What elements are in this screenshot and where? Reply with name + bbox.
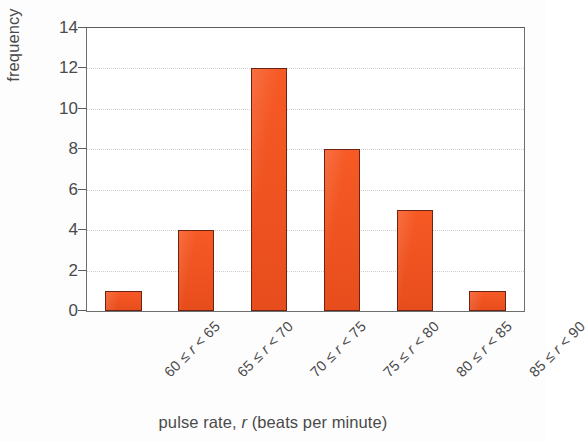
x-axis-tick-label: 70 ≤ r < 75 [307, 318, 369, 380]
y-axis-tick-label: 12 [52, 59, 78, 76]
y-axis-title: frequency [4, 0, 28, 120]
y-axis-tick-label: 2 [52, 261, 78, 278]
plot-area [86, 27, 525, 312]
y-axis-tick-label: 8 [52, 140, 78, 157]
y-axis-tick-mark [78, 27, 86, 28]
bar[interactable] [324, 149, 360, 311]
bar-texture [179, 231, 213, 310]
gridline [87, 311, 524, 312]
x-axis-tick-label: 85 ≤ r < 90 [526, 318, 588, 380]
y-axis-tick-labels: 02468101214 [36, 0, 78, 442]
y-axis-tick-mark [78, 67, 86, 68]
bar[interactable] [178, 230, 214, 311]
x-axis-tick-label: 65 ≤ r < 70 [234, 318, 296, 380]
x-axis-title: pulse rate, r (beats per minute) [0, 413, 546, 432]
y-axis-tick-label: 4 [52, 221, 78, 238]
gridline [87, 271, 524, 272]
y-axis-tick-label: 14 [52, 19, 78, 36]
gridline [87, 109, 524, 110]
bar[interactable] [251, 68, 287, 311]
gridline [87, 230, 524, 231]
x-axis-tick-label: 75 ≤ r < 80 [380, 318, 442, 380]
bar[interactable] [397, 210, 433, 311]
y-axis-tick-mark [78, 108, 86, 109]
bar-texture [325, 150, 359, 310]
y-axis-tick-label: 0 [52, 302, 78, 319]
bar-texture [470, 292, 504, 310]
bar-texture [252, 69, 286, 310]
gridline [87, 149, 524, 150]
y-axis-tick-mark [78, 310, 86, 311]
gridline [87, 190, 524, 191]
y-axis-tick-mark [78, 189, 86, 190]
bar[interactable] [469, 291, 505, 311]
y-axis-tick-mark [78, 229, 86, 230]
y-axis-tick-label: 10 [52, 99, 78, 116]
y-axis-tick-mark [78, 148, 86, 149]
bar-texture [398, 211, 432, 310]
bar-texture [106, 292, 140, 310]
y-axis-tick-label: 6 [52, 180, 78, 197]
x-axis-tick-label: 80 ≤ r < 85 [453, 318, 515, 380]
y-axis-tick-mark [78, 270, 86, 271]
x-axis-tick-label: 60 ≤ r < 65 [161, 318, 223, 380]
gridline [87, 68, 524, 69]
bar[interactable] [105, 291, 141, 311]
